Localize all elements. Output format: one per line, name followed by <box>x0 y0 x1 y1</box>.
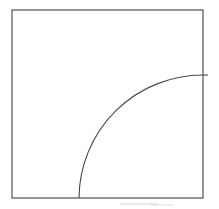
paper-artifacts <box>120 203 174 206</box>
quarter-circle-arc <box>79 75 203 198</box>
square-outline <box>12 10 203 198</box>
smudge-mark <box>150 204 174 206</box>
figure-canvas: Square with inscribed quarter circle arc <box>0 0 219 209</box>
geometry-diagram <box>0 0 219 209</box>
